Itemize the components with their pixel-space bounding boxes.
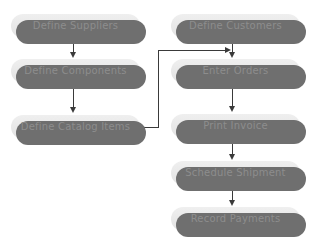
node-define-suppliers-label: Define Suppliers bbox=[33, 21, 118, 31]
node-define-customers-label: Define Customers bbox=[189, 21, 282, 31]
node-print-invoice[interactable]: Print Invoice bbox=[171, 114, 300, 138]
node-enter-orders-label: Enter Orders bbox=[202, 66, 268, 76]
node-print-invoice-label: Print Invoice bbox=[203, 121, 268, 131]
node-record-payments-label: Record Payments bbox=[191, 214, 281, 224]
node-define-catalog-items[interactable]: Define Catalog Items bbox=[11, 115, 140, 139]
connector-catalog-to-orders-segment-in bbox=[158, 50, 226, 51]
flowchart-canvas: Define Suppliers Define Components Defin… bbox=[0, 0, 320, 251]
node-schedule-shipment-label: Schedule Shipment bbox=[185, 168, 286, 178]
node-enter-orders[interactable]: Enter Orders bbox=[171, 59, 300, 83]
node-define-components[interactable]: Define Components bbox=[11, 59, 140, 83]
node-define-suppliers[interactable]: Define Suppliers bbox=[11, 14, 140, 38]
connector-invoice-to-shipment-arrowhead bbox=[229, 154, 235, 160]
node-define-customers[interactable]: Define Customers bbox=[171, 14, 300, 38]
connector-shipment-to-payments-arrowhead bbox=[229, 200, 235, 206]
node-record-payments[interactable]: Record Payments bbox=[171, 207, 300, 231]
node-define-catalog-items-label: Define Catalog Items bbox=[21, 122, 130, 132]
node-define-components-label: Define Components bbox=[24, 66, 127, 76]
connector-customers-to-orders-arrowhead bbox=[229, 52, 235, 58]
node-schedule-shipment[interactable]: Schedule Shipment bbox=[171, 161, 300, 185]
connector-components-to-catalog-arrowhead bbox=[70, 107, 76, 113]
connector-orders-to-invoice-arrowhead bbox=[229, 106, 235, 112]
connector-catalog-to-orders-segment-up bbox=[158, 50, 159, 128]
connector-suppliers-to-components-arrowhead bbox=[70, 52, 76, 58]
